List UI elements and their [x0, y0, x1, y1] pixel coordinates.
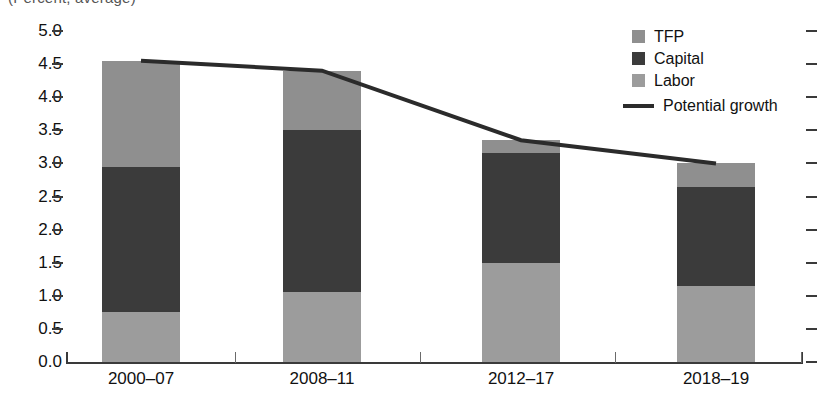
x-axis-line	[66, 362, 803, 364]
legend-line-marker	[632, 99, 645, 112]
y-axis-tick-mark-right	[806, 96, 817, 98]
x-axis-tick-label: 2018–19	[646, 370, 786, 388]
y-axis-tick-mark-left	[52, 328, 63, 330]
x-axis-minor-tick	[235, 352, 236, 363]
bar-segment-capital	[482, 153, 560, 262]
y-axis-tick-mark-right	[806, 229, 817, 231]
bar-segment-labor	[283, 292, 361, 362]
y-axis-tick-mark-right	[806, 295, 817, 297]
y-axis-tick-mark-right	[806, 129, 817, 131]
y-axis-tick-mark-left	[52, 295, 63, 297]
x-axis-minor-tick	[420, 352, 421, 363]
x-axis-minor-tick	[615, 352, 616, 363]
potential-growth-line	[141, 61, 716, 164]
bar-segment-capital	[677, 187, 755, 286]
legend-item-label: Potential growth	[663, 95, 778, 116]
bar-segment-labor	[482, 263, 560, 362]
bar-segment-tfp	[482, 140, 560, 153]
legend-item-label: Capital	[654, 48, 704, 69]
y-axis-tick-mark-left	[52, 63, 63, 65]
bar-segment-labor	[102, 312, 180, 362]
y-axis-tick-mark-right	[806, 63, 817, 65]
legend-item-potential-growth[interactable]: Potential growth	[632, 95, 778, 116]
chart-subtitle-clipped: (Percent, average)	[8, 0, 136, 6]
legend-swatch-icon	[632, 74, 645, 87]
y-axis-tick-mark-left	[52, 262, 63, 264]
x-axis-tick-label: 2012–17	[451, 370, 591, 388]
y-axis-tick-mark-right	[806, 361, 817, 363]
legend-item-labor[interactable]: Labor	[632, 70, 778, 91]
y-axis-tick-mark-left	[52, 196, 63, 198]
bar-segment-tfp	[677, 163, 755, 186]
legend-swatch-icon	[632, 30, 645, 43]
bar-segment-capital	[283, 130, 361, 292]
x-axis-minor-tick	[801, 352, 802, 363]
chart-container: (Percent, average) 5.04.54.03.53.02.52.0…	[0, 0, 831, 405]
y-axis-tick-label: 0.0	[0, 353, 62, 370]
legend: TFPCapitalLaborPotential growth	[632, 26, 778, 117]
x-axis-left-cap	[66, 352, 68, 364]
legend-item-tfp[interactable]: TFP	[632, 26, 778, 47]
x-axis-tick-label: 2008–11	[252, 370, 392, 388]
y-axis-tick-mark-left	[52, 229, 63, 231]
y-axis-tick-mark-left	[52, 129, 63, 131]
bar-segment-tfp	[283, 71, 361, 131]
legend-item-label: Labor	[654, 70, 695, 91]
y-axis-tick-mark-right	[806, 30, 817, 32]
y-axis-tick-mark-left	[52, 96, 63, 98]
y-axis-tick-mark-right	[806, 262, 817, 264]
y-axis-tick-mark-right	[806, 328, 817, 330]
bar-segment-capital	[102, 167, 180, 313]
y-axis-tick-mark-right	[806, 162, 817, 164]
legend-item-capital[interactable]: Capital	[632, 48, 778, 69]
y-axis-tick-mark-left	[52, 162, 63, 164]
y-axis-tick-mark-right	[806, 196, 817, 198]
legend-swatch-icon	[632, 52, 645, 65]
bar-segment-tfp	[102, 61, 180, 167]
y-axis-tick-mark-left	[52, 30, 63, 32]
bar-segment-labor	[677, 286, 755, 362]
x-axis-tick-label: 2000–07	[71, 370, 211, 388]
legend-item-label: TFP	[654, 26, 684, 47]
